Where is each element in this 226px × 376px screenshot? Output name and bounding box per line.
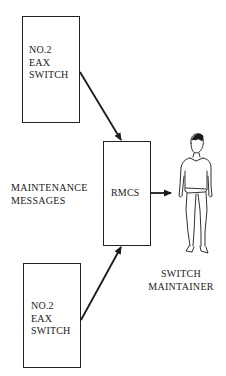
person-icon (179, 134, 212, 253)
arrow-top-switch-to-rmcs (80, 72, 121, 140)
diagram-canvas: NO.2 EAX SWITCH RMCS NO.2 EAX SWITCH MAI… (0, 0, 226, 376)
arrow-bottom-switch-to-rmcs (81, 247, 121, 320)
connectors-layer (0, 0, 226, 376)
